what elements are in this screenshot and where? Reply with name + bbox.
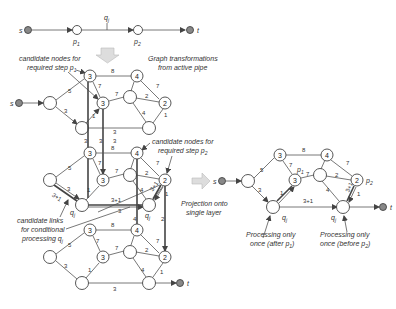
- svg-text:8: 8: [302, 147, 306, 153]
- svg-text:3: 3: [278, 152, 282, 159]
- layer1-source-node: [16, 100, 23, 107]
- p1-label: p1: [72, 38, 80, 47]
- svg-text:3: 3: [113, 286, 117, 292]
- svg-text:p1: p1: [296, 166, 304, 175]
- svg-text:7: 7: [115, 168, 119, 174]
- layer2-node-left: [44, 174, 57, 187]
- p2-label: p2: [133, 38, 141, 47]
- svg-text:2: 2: [145, 93, 149, 99]
- layer2-node-bot1: [76, 199, 89, 212]
- svg-text:3: 3: [88, 150, 92, 157]
- source-node: [25, 27, 32, 34]
- layer-2-graph: 8 5 7 7 2 7 3 1 3+1 3 4 1 3+1 3+1 3 4 3 …: [44, 145, 172, 221]
- svg-text:qj: qj: [70, 209, 76, 218]
- svg-text:2: 2: [355, 177, 359, 184]
- svg-text:qj: qj: [331, 214, 337, 223]
- projected-graph: s 8 5 7 7 2 7 3 1 3+1 4 1 3+1 3 4 3: [213, 147, 393, 223]
- svg-text:7: 7: [98, 83, 102, 89]
- sink-node: [187, 27, 194, 34]
- svg-text:qj: qj: [145, 212, 151, 221]
- candidate-links-text-2: for conditional: [21, 226, 65, 233]
- svg-text:3: 3: [88, 227, 92, 234]
- svg-text:2: 2: [163, 177, 167, 184]
- top-chain: s p1 qj p2 t: [19, 14, 200, 47]
- svg-text:t: t: [187, 280, 190, 287]
- candidate-links-text-1: candidate links: [17, 217, 64, 224]
- svg-text:3+1: 3+1: [51, 192, 63, 203]
- candidate-p2-text-2: required step p2: [158, 147, 208, 156]
- once-before-text-2: once (before p2): [320, 240, 370, 249]
- svg-text:7: 7: [156, 83, 160, 89]
- svg-text:8: 8: [111, 145, 115, 151]
- layer2-node-bot2: [143, 199, 156, 212]
- svg-text:7: 7: [289, 162, 293, 168]
- svg-text:t: t: [390, 204, 393, 211]
- pipe-routing-diagram: s p1 qj p2 t Graph transformations from …: [0, 0, 396, 309]
- svg-text:7: 7: [115, 91, 119, 97]
- source-label: s: [19, 27, 23, 34]
- svg-text:2: 2: [145, 170, 149, 176]
- projection-text-1: Projection onto: [181, 200, 228, 208]
- layer3-node-mid: [124, 246, 137, 259]
- candidate-links-text-3: processing qj: [21, 235, 64, 244]
- transform-down-arrow-icon: [96, 48, 119, 63]
- svg-text:8: 8: [111, 68, 115, 74]
- p2-node: [134, 26, 143, 35]
- svg-text:3: 3: [101, 177, 105, 184]
- svg-text:3: 3: [88, 73, 92, 80]
- right-sink-node: [380, 204, 387, 211]
- svg-text:2: 2: [335, 172, 339, 178]
- svg-text:1: 1: [357, 191, 361, 197]
- svg-text:3: 3: [67, 186, 71, 192]
- svg-text:7: 7: [98, 160, 102, 166]
- svg-text:7: 7: [346, 160, 350, 166]
- layer2-node-mid: [124, 169, 137, 182]
- svg-text:3: 3: [113, 138, 117, 144]
- svg-text:s: s: [213, 178, 217, 185]
- svg-text:7: 7: [115, 245, 119, 251]
- svg-text:4: 4: [135, 227, 139, 234]
- layer1-node-bot2: [143, 122, 156, 135]
- layer3-node-bot1: [76, 277, 89, 290]
- svg-text:qj: qj: [282, 214, 288, 223]
- svg-text:7: 7: [96, 238, 100, 244]
- layer3-node-bot2: [143, 277, 156, 290]
- sink-label: t: [197, 27, 200, 34]
- right-node-q-second: [337, 201, 350, 214]
- svg-text:3: 3: [64, 108, 68, 114]
- svg-text:2: 2: [145, 247, 149, 253]
- graph-transform-text-2: from active pipe: [158, 64, 208, 72]
- svg-text:4: 4: [135, 73, 139, 80]
- qj-label: qj: [104, 14, 110, 23]
- layer-3-graph: 8 5 7 7 2 7 3 1 3 4 1 3 4 3 2 t: [44, 222, 191, 292]
- svg-text:3+1: 3+1: [111, 197, 122, 203]
- layer-1-graph: s 8 5 7 7 2 7 3 1 3 4 1 3 4 3 2: [10, 68, 171, 135]
- svg-text:3: 3: [64, 263, 68, 269]
- graph-transform-text-1: Graph transformations: [148, 55, 218, 63]
- layer3-node-left: [44, 251, 57, 264]
- svg-text:s: s: [10, 100, 14, 107]
- candidate-p2-text-1: candidate nodes for: [152, 138, 214, 145]
- layer1-node-mid: [124, 91, 137, 104]
- svg-text:5: 5: [260, 167, 264, 173]
- svg-text:4: 4: [142, 110, 146, 116]
- once-after-text-2: once (after p1): [250, 240, 294, 249]
- right-node-q-first: [267, 201, 280, 214]
- svg-text:3: 3: [101, 100, 105, 107]
- svg-text:1: 1: [87, 187, 91, 193]
- projection-text-2: single layer: [186, 209, 222, 217]
- svg-text:3: 3: [101, 254, 105, 261]
- once-after-text-1: Processing only: [246, 231, 296, 239]
- layer3-sink-node: [177, 280, 184, 287]
- right-source-node: [219, 178, 226, 185]
- p1-node: [73, 26, 82, 35]
- svg-text:3+1: 3+1: [303, 198, 314, 204]
- candidate-p1-text-1: candidate nodes for: [19, 55, 81, 62]
- layer1-node-left: [44, 97, 57, 110]
- svg-text:4: 4: [135, 150, 139, 157]
- svg-text:4: 4: [325, 152, 329, 159]
- svg-text:1: 1: [92, 113, 96, 119]
- svg-text:1: 1: [160, 269, 164, 275]
- svg-text:8: 8: [111, 222, 115, 228]
- candidate-p1-text-2: required step p1: [27, 64, 77, 73]
